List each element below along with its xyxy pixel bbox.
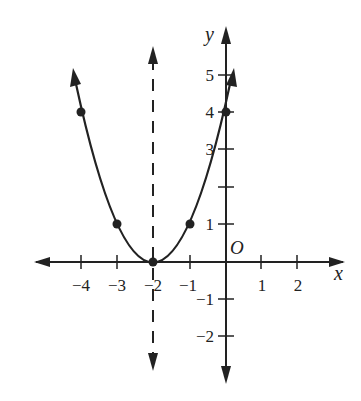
- point-neg3-1: [113, 220, 122, 229]
- point-neg1-1: [186, 220, 195, 229]
- x-tick-labels: −4 −3 −2 −1 1 2: [72, 276, 302, 295]
- origin-label: O: [230, 237, 244, 258]
- x-tick-label: 2: [294, 276, 303, 295]
- y-tick-label: 5: [206, 66, 215, 85]
- symmetry-down-arrow-icon: [148, 353, 158, 371]
- y-tick-label: 3: [206, 140, 215, 159]
- x-axis: [34, 255, 345, 269]
- axis-labels: y x O: [203, 23, 343, 284]
- y-tick-labels: 1 3 4 5 −1 −2: [196, 66, 215, 346]
- parabola-right-arrow-icon: [226, 68, 237, 87]
- x-tick-label: −2: [144, 276, 162, 295]
- point-0-4: [222, 108, 231, 117]
- y-axis-up-arrow-icon: [221, 26, 231, 44]
- point-neg4-4: [77, 108, 86, 117]
- axis-of-symmetry: [148, 46, 158, 371]
- x-axis-left-arrow-icon: [34, 257, 50, 267]
- vertex-point: [149, 258, 158, 267]
- y-axis-label: y: [203, 23, 214, 46]
- y-tick-label: −2: [196, 327, 214, 346]
- y-axis-down-arrow-icon: [221, 366, 231, 384]
- coordinate-graph: y x O −4 −3 −2 −1 1 2 1 3 4 5 −1 −2: [0, 0, 361, 401]
- x-tick-label: 1: [258, 276, 267, 295]
- x-tick-label: −1: [179, 276, 197, 295]
- symmetry-up-arrow-icon: [148, 46, 158, 64]
- y-tick-label: 1: [206, 215, 215, 234]
- parabola-left-arrow-icon: [70, 68, 81, 87]
- x-tick-label: −4: [72, 276, 91, 295]
- y-tick-label: 4: [206, 103, 215, 122]
- x-tick-label: −3: [108, 276, 126, 295]
- x-axis-label: x: [333, 262, 343, 284]
- y-tick-label: −1: [196, 290, 214, 309]
